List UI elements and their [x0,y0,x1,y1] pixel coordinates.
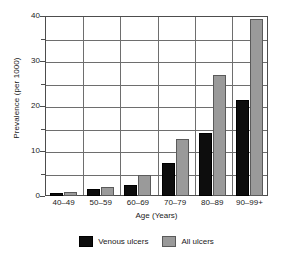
bar-chart-figure: Prevalence (per 1000) 010203040 40–4950–… [0,0,293,264]
y-axis-tick-label: 40 [22,12,40,20]
legend-item-label: All ulcers [181,237,213,246]
y-axis-tick-labels: 010203040 [22,0,40,264]
legend-item: Venous ulcers [79,236,148,247]
legend-item-label: Venous ulcers [98,237,148,246]
bar [213,75,226,197]
y-axis-tick-label: 10 [22,147,40,155]
bar [87,189,100,196]
y-axis-tick-label: 20 [22,102,40,110]
y-axis-tick-label: 30 [22,57,40,65]
bar-group [231,16,268,196]
x-axis-tick-label: 40–49 [45,198,82,208]
x-axis-tick-label: 60–69 [119,198,156,208]
bar-group [119,16,156,196]
black-square-swatch [79,236,93,247]
bar [50,193,63,196]
bar [176,139,189,196]
legend-item: All ulcers [162,236,213,247]
x-axis-tick-label: 70–79 [157,198,194,208]
bar-group [194,16,231,196]
bar [124,185,137,196]
bar [236,100,249,196]
bar [199,133,212,196]
bar-series-container [45,16,268,196]
bar [138,175,151,196]
x-axis-tick-label: 80–89 [194,198,231,208]
bar-group [82,16,119,196]
gray-square-swatch [162,236,176,247]
bar-group [45,16,82,196]
bar [64,192,77,196]
chart-legend: Venous ulcersAll ulcers [0,236,293,247]
x-axis-tick-labels: 40–4950–5960–6970–7980–8990–99+ [45,198,268,210]
x-axis-title: Age (Years) [45,211,268,220]
bar [250,19,263,196]
y-axis-tick-label: 0 [22,192,40,200]
bar-group [157,16,194,196]
x-axis-tick-label: 90–99+ [231,198,268,208]
bar [101,187,114,196]
x-axis-tick-label: 50–59 [82,198,119,208]
y-axis-tick-mark-major [40,196,45,197]
bar [162,163,175,196]
